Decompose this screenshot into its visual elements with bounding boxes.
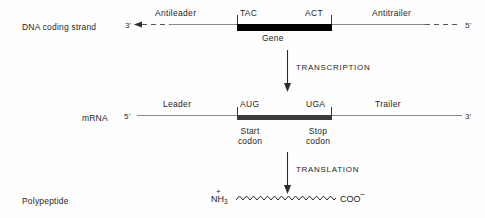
polypeptide-row-label: Polypeptide — [22, 196, 69, 206]
mrna-stop-codon-uga-label: UGA — [306, 99, 325, 109]
mrna-five-prime-end-label: 5' — [124, 112, 130, 121]
dna-stop-codon-act-label: ACT — [305, 8, 323, 18]
amino-terminus-subscript: 3 — [224, 198, 228, 205]
gene-expression-diagram: DNA coding strand 3' 5' Antileader Antit… — [0, 0, 485, 218]
gene-caption-label: Gene — [262, 33, 284, 44]
amino-terminus-text: NH — [211, 194, 224, 204]
start-codon-caption-line2: codon — [230, 136, 270, 147]
trailer-region-label: Trailer — [375, 99, 401, 109]
stop-codon-caption-line2: codon — [298, 136, 338, 147]
amino-terminus-group: NH3 — [211, 194, 228, 204]
stop-codon-caption-line1: Stop — [298, 126, 338, 137]
dna-left-arrow — [134, 22, 170, 28]
dna-strand-row-label: DNA coding strand — [22, 22, 96, 32]
leader-region-label: Leader — [163, 99, 191, 109]
dna-five-prime-end-label: 5' — [465, 21, 471, 30]
transcription-arrow — [284, 50, 291, 92]
translation-step-label: TRANSLATION — [296, 165, 359, 174]
carboxyl-terminus-charge: − — [361, 190, 366, 199]
mrna-start-codon-aug-label: AUG — [240, 99, 259, 109]
dna-start-codon-tac-label: TAC — [240, 8, 257, 18]
transcription-step-label: TRANSCRIPTION — [296, 63, 370, 72]
diagram-graphics-layer — [0, 0, 485, 218]
gene-box — [237, 24, 332, 31]
start-codon-caption-line1: Start — [230, 126, 270, 137]
translation-arrow — [284, 152, 291, 194]
mrna-three-prime-end-label: 3' — [465, 112, 471, 121]
mrna-row-label: mRNA — [82, 113, 108, 123]
dna-three-prime-end-label: 3' — [125, 21, 131, 30]
antileader-region-label: Antileader — [155, 8, 196, 18]
antitrailer-region-label: Antitrailer — [372, 8, 411, 18]
carboxyl-terminus-text: COO — [340, 194, 361, 204]
polypeptide-chain-zigzag — [236, 196, 336, 200]
mrna-coding-region-box — [237, 115, 332, 120]
carboxyl-terminus-group: COO− — [340, 194, 365, 204]
